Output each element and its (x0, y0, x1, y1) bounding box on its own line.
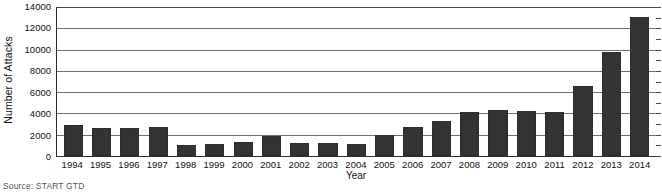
axis-tick-mark (656, 50, 661, 51)
bar[interactable] (177, 145, 196, 156)
bar-slot (257, 7, 285, 156)
bar[interactable] (545, 112, 564, 156)
bar-chart-figure: Number of Attacks 0200040006000800010000… (0, 0, 662, 195)
y-axis-tick-label: 10000 (25, 45, 51, 55)
bar[interactable] (517, 111, 536, 156)
bar[interactable] (630, 17, 649, 156)
bar[interactable] (234, 142, 253, 156)
bar-slot (342, 7, 370, 156)
bar-slot (597, 7, 625, 156)
y-axis-tick-labels: 02000400060008000100001200014000 (16, 7, 54, 157)
axis-tick-mark (656, 113, 661, 114)
bar-slot (87, 7, 115, 156)
plot-area (56, 7, 656, 157)
bar-slot (541, 7, 569, 156)
bar[interactable] (64, 125, 83, 156)
bar[interactable] (403, 127, 422, 156)
y-axis-tick-label: 14000 (25, 2, 51, 12)
bar[interactable] (602, 52, 621, 156)
bar-slot (201, 7, 229, 156)
axis-tick-mark (656, 60, 661, 61)
axis-tick-mark (656, 103, 661, 104)
y-axis-tick-label: 0 (46, 152, 51, 162)
bar-slot (399, 7, 427, 156)
y-axis-tick-label: 4000 (30, 109, 51, 119)
axis-tick-mark (656, 7, 661, 8)
bar[interactable] (347, 144, 366, 156)
axis-tick-mark (656, 145, 661, 146)
bar-slot (59, 7, 87, 156)
bar[interactable] (149, 127, 168, 156)
axis-tick-mark (656, 39, 661, 40)
axis-tick-mark (656, 82, 661, 83)
bar-slot (116, 7, 144, 156)
bar-slot (144, 7, 172, 156)
axis-tick-mark (656, 92, 661, 93)
bar[interactable] (432, 121, 451, 156)
y-axis-tick-label: 2000 (30, 131, 51, 141)
y-axis-tick-label: 6000 (30, 88, 51, 98)
bar-slot (484, 7, 512, 156)
x-axis-title: Year (56, 170, 656, 181)
bar-slot (456, 7, 484, 156)
bar[interactable] (92, 128, 111, 156)
bar[interactable] (120, 128, 139, 156)
bar-slot (172, 7, 200, 156)
bar-slot (371, 7, 399, 156)
bar[interactable] (375, 135, 394, 156)
axis-tick-mark (656, 156, 661, 157)
axis-tick-mark (656, 18, 661, 19)
y-axis-title-text: Number of Attacks (2, 36, 14, 123)
source-note: Source: START GTD (3, 181, 84, 191)
bar-slot (286, 7, 314, 156)
bar-slot (569, 7, 597, 156)
bar-slot (314, 7, 342, 156)
bar-slot (229, 7, 257, 156)
right-axis-ticks (656, 7, 661, 156)
y-axis-title: Number of Attacks (0, 0, 16, 160)
bar[interactable] (205, 144, 224, 156)
bar[interactable] (488, 110, 507, 156)
y-axis-tick-label: 12000 (25, 24, 51, 34)
bar-series (57, 7, 656, 156)
bar-slot (512, 7, 540, 156)
bar[interactable] (318, 143, 337, 156)
axis-tick-mark (656, 124, 661, 125)
axis-tick-mark (656, 135, 661, 136)
bar[interactable] (262, 136, 281, 156)
y-axis-tick-label: 8000 (30, 67, 51, 77)
axis-tick-mark (656, 28, 661, 29)
bar-slot (427, 7, 455, 156)
bar[interactable] (573, 86, 592, 156)
bar[interactable] (290, 143, 309, 156)
bar[interactable] (460, 112, 479, 156)
axis-tick-mark (656, 71, 661, 72)
bar-slot (626, 7, 654, 156)
